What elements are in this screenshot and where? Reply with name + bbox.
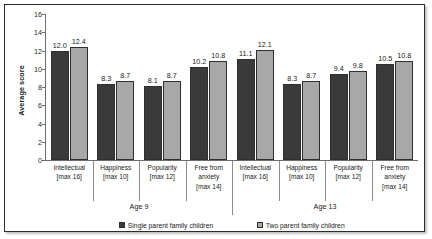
y-tick-label: 16 — [20, 10, 42, 19]
bar-two[interactable]: 12.1 — [256, 50, 274, 160]
group-label: Age 9 — [46, 202, 232, 211]
y-tick-mark — [42, 32, 45, 33]
y-tick-label: 6 — [20, 101, 42, 110]
y-tick-mark — [42, 87, 45, 88]
bar-single[interactable]: 9.4 — [330, 74, 348, 160]
category-label: Intellectual[max 16] — [232, 163, 279, 182]
category-label-line: Free from — [186, 163, 233, 172]
category-label-line: [max 12] — [139, 172, 186, 181]
bar-pair: 8.38.7 — [93, 14, 140, 160]
y-tick-label: 14 — [20, 28, 42, 37]
category-label-line: [max 16] — [232, 172, 279, 181]
bar-pair: 9.49.8 — [325, 14, 372, 160]
category-separator — [93, 161, 94, 201]
category-label-line: anxiety — [186, 172, 233, 181]
bar-single[interactable]: 11.1 — [237, 59, 255, 160]
category-label-line: [max 10] — [93, 172, 140, 181]
bar-value-label: 12.4 — [72, 37, 86, 46]
category-label-line: anxiety — [372, 172, 419, 181]
category-slot: 8.38.7 — [93, 14, 140, 160]
y-tick-label: 0 — [20, 156, 42, 165]
bar-pair: 10.210.8 — [186, 14, 233, 160]
category-label-line: [max 14] — [186, 182, 233, 191]
y-tick-mark — [42, 142, 45, 143]
bar-two[interactable]: 9.8 — [349, 71, 367, 160]
category-label: Happiness[max 10] — [279, 163, 326, 182]
bar-value-label: 8.3 — [101, 74, 111, 83]
category-label-line: Happiness — [279, 163, 326, 172]
category-slot: 10.210.8 — [186, 14, 233, 160]
legend-item[interactable]: Single parent family children — [119, 222, 213, 229]
y-tick-mark — [42, 124, 45, 125]
category-separator — [139, 161, 140, 201]
bar-value-label: 10.8 — [397, 51, 411, 60]
group-label: Age 13 — [232, 202, 418, 211]
y-tick-label: 2 — [20, 137, 42, 146]
bar-value-label: 8.7 — [306, 71, 316, 80]
y-tick-label: 4 — [20, 119, 42, 128]
category-slot: 12.012.4 — [46, 14, 93, 160]
category-label: Popularity[max 12] — [139, 163, 186, 182]
legend-label: Single parent family children — [128, 222, 213, 229]
y-tick-label: 12 — [20, 46, 42, 55]
bar-two[interactable]: 8.7 — [302, 81, 320, 160]
bar-value-label: 12.1 — [258, 40, 272, 49]
category-label-line: Happiness — [93, 163, 140, 172]
bar-two[interactable]: 8.7 — [163, 81, 181, 160]
chart-legend: Single parent family childrenTwo parent … — [46, 218, 418, 232]
bar-single[interactable]: 8.3 — [97, 84, 115, 160]
bar-single[interactable]: 12.0 — [51, 51, 69, 161]
y-tick-mark — [42, 105, 45, 106]
category-separator — [279, 161, 280, 201]
category-label-line: [max 12] — [325, 172, 372, 181]
category-slot: 8.38.7 — [279, 14, 326, 160]
category-label-line: Popularity — [325, 163, 372, 172]
bar-pair: 12.012.4 — [46, 14, 93, 160]
category-slot: 10.510.8 — [372, 14, 419, 160]
bar-two[interactable]: 10.8 — [209, 61, 227, 160]
bar-two[interactable]: 8.7 — [116, 81, 134, 160]
bar-value-label: 10.8 — [211, 51, 225, 60]
bar-value-label: 8.7 — [120, 71, 130, 80]
category-label: Free fromanxiety[max 14] — [372, 163, 419, 191]
category-label-line: Intellectual — [46, 163, 93, 172]
bar-single[interactable]: 8.3 — [283, 84, 301, 160]
category-label: Free fromanxiety[max 14] — [186, 163, 233, 191]
bar-single[interactable]: 8.1 — [144, 86, 162, 160]
bar-single[interactable]: 10.2 — [190, 67, 208, 160]
y-tick-label: 8 — [20, 83, 42, 92]
category-label: Popularity[max 12] — [325, 163, 372, 182]
bar-pair: 11.112.1 — [232, 14, 279, 160]
bar-value-label: 11.1 — [239, 49, 252, 58]
category-separator — [325, 161, 326, 201]
bar-value-label: 10.2 — [192, 57, 206, 66]
category-label-line: Free from — [372, 163, 419, 172]
legend-swatch-icon — [119, 222, 125, 228]
category-separator — [372, 161, 373, 201]
y-tick-mark — [42, 14, 45, 15]
y-axis-tick-labels: 1614121086420 — [20, 14, 42, 160]
y-tick-mark — [42, 69, 45, 70]
category-label: Intellectual[max 16] — [46, 163, 93, 182]
group-label-band: Age 9Age 13 — [46, 201, 418, 215]
category-slot: 9.49.8 — [325, 14, 372, 160]
bar-value-label: 9.8 — [353, 61, 363, 70]
y-tick-mark — [42, 51, 45, 52]
category-label-line: [max 16] — [46, 172, 93, 181]
category-label: Happiness[max 10] — [93, 163, 140, 182]
bar-value-label: 8.1 — [148, 76, 158, 85]
category-label-line: Popularity — [139, 163, 186, 172]
legend-label: Two parent family children — [266, 222, 345, 229]
bar-two[interactable]: 10.8 — [395, 61, 413, 160]
plot-area: 12.012.48.38.78.18.710.210.811.112.18.38… — [46, 14, 418, 160]
bar-single[interactable]: 10.5 — [376, 64, 394, 160]
bar-pair: 10.510.8 — [372, 14, 419, 160]
category-slot: 11.112.1 — [232, 14, 279, 160]
legend-swatch-icon — [257, 222, 263, 228]
bar-chart-figure: Average score 1614121086420 12.012.48.38… — [0, 0, 432, 239]
bar-value-label: 8.3 — [287, 74, 297, 83]
bar-value-label: 8.7 — [167, 71, 177, 80]
bar-two[interactable]: 12.4 — [70, 47, 88, 160]
legend-item[interactable]: Two parent family children — [257, 222, 344, 229]
bar-value-label: 9.4 — [334, 64, 344, 73]
